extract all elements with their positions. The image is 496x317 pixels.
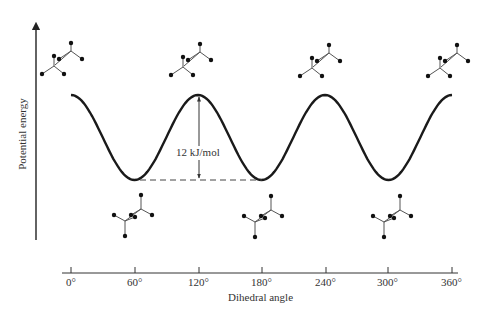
eclipsed-conformer-360 <box>426 43 470 78</box>
x-tick-360: 360° <box>441 276 462 288</box>
x-tick-60: 60° <box>127 276 142 288</box>
x-tick-240: 240° <box>315 276 336 288</box>
eclipsed-conformer-0 <box>40 41 84 76</box>
staggered-conformer-300 <box>371 194 413 239</box>
x-tick-300: 300° <box>377 276 398 288</box>
chart-canvas <box>0 0 496 317</box>
conformational-energy-diagram: Potential energy 12 kJ/mol Dihedral angl… <box>0 0 496 317</box>
x-tick-180: 180° <box>251 276 272 288</box>
x-tick-120: 120° <box>188 276 209 288</box>
x-axis-ticks <box>71 267 452 273</box>
eclipsed-conformer-120 <box>169 42 213 77</box>
staggered-conformer-60 <box>112 193 154 238</box>
x-tick-0: 0° <box>66 276 76 288</box>
y-axis-label: Potential energy <box>16 94 28 174</box>
x-axis-label: Dihedral angle <box>228 291 293 303</box>
eclipsed-conformer-240 <box>298 43 342 78</box>
staggered-conformer-180 <box>242 194 284 239</box>
barrier-label: 12 kJ/mol <box>176 146 220 158</box>
energy-curve <box>71 95 452 180</box>
